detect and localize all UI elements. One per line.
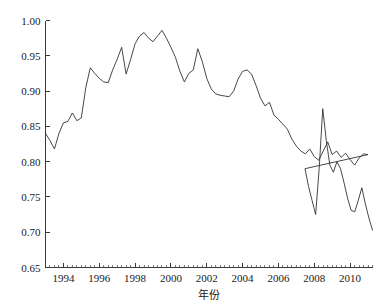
x-tick-label: 1996 (88, 272, 111, 284)
x-axis-title: 年份 (198, 288, 220, 301)
x-tick-label: 2004 (232, 272, 255, 284)
y-tick-label: 0.70 (21, 226, 41, 238)
y-tick-label: 0.80 (21, 156, 41, 168)
chart-container: 0.650.700.750.800.850.900.951.00 1994199… (0, 0, 378, 307)
y-tick-label: 0.65 (21, 262, 41, 274)
x-tick-label: 2008 (303, 272, 326, 284)
line-chart: 0.650.700.750.800.850.900.951.00 1994199… (0, 0, 378, 307)
data-series-line (46, 30, 373, 230)
y-tick-label: 0.85 (21, 120, 41, 132)
axis-frame (46, 21, 373, 268)
y-tick-label: 1.00 (21, 15, 41, 27)
x-tick-label: 2006 (267, 272, 290, 284)
x-tick-label: 1994 (52, 272, 75, 284)
x-tick-label: 2000 (160, 272, 183, 284)
x-tick-label: 2002 (196, 272, 218, 284)
axis-tick-marks (46, 21, 373, 268)
y-axis-tick-labels: 0.650.700.750.800.850.900.951.00 (21, 15, 41, 274)
y-tick-label: 0.75 (21, 191, 41, 203)
y-tick-label: 0.90 (21, 85, 41, 97)
x-axis-tick-labels: 199419961998200020022004200620082010 (52, 272, 361, 284)
x-tick-label: 1998 (124, 272, 147, 284)
y-tick-label: 0.95 (21, 50, 41, 62)
x-tick-label: 2010 (339, 272, 362, 284)
